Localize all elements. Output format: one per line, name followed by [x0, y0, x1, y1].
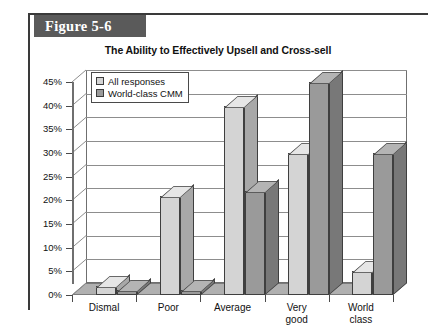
bar-world-class-series-1 [352, 271, 372, 295]
bar-dismal-series-2 [117, 290, 137, 295]
figure-number-label: Figure 5-6 [34, 18, 112, 35]
legend-label-world-class-cmm: World-class CMM [108, 88, 183, 99]
bar-front-face [245, 191, 265, 295]
legend-item-world-class-cmm: World-class CMM [96, 87, 183, 99]
bar-poor-series-1 [160, 196, 180, 295]
bar-chart: 0%5%10%15%20%25%30%35%40%45% All respons… [36, 62, 424, 312]
bar-side-face [393, 141, 407, 295]
bar-front-face [373, 153, 393, 295]
chart-title: The Ability to Effectively Upsell and Cr… [0, 44, 436, 56]
x-axis-label-line: class [329, 314, 393, 326]
legend-swatch-world-class-cmm [96, 89, 104, 97]
bar-front-face [160, 196, 180, 295]
bar-front-face [224, 106, 244, 295]
bar-very-good-series-2 [309, 82, 329, 295]
bar-dismal-series-1 [96, 286, 116, 295]
figure-page: Figure 5-6 The Ability to Effectively Up… [0, 0, 436, 326]
bar-average-series-1 [224, 106, 244, 295]
legend-swatch-all-responses [96, 77, 104, 85]
bar-side-face [180, 184, 194, 295]
figure-number-tab: Figure 5-6 [34, 15, 146, 37]
bar-very-good-series-1 [288, 153, 308, 295]
bar-side-face [329, 70, 343, 295]
bar-poor-series-2 [181, 290, 201, 295]
bar-front-face [352, 271, 372, 295]
legend-item-all-responses: All responses [96, 75, 183, 87]
bar-world-class-series-2 [373, 153, 393, 295]
bar-front-face [288, 153, 308, 295]
bar-average-series-2 [245, 191, 265, 295]
chart-legend: All responses World-class CMM [91, 72, 189, 103]
bar-side-face [265, 179, 279, 295]
bar-front-face [309, 82, 329, 295]
x-axis-label-line: good [265, 314, 329, 326]
legend-label-all-responses: All responses [108, 76, 165, 87]
